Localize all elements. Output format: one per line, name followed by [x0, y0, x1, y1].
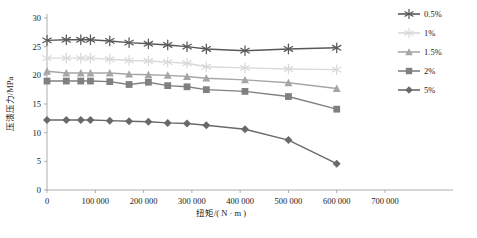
data-point-marker: [126, 81, 133, 88]
data-point-marker: [77, 78, 84, 85]
crush-pressure-vs-torque-chart: 0510152025300100 000200 000300 000400 00…: [0, 0, 477, 238]
data-point-marker: [164, 119, 172, 127]
y-tick-label: 5: [37, 156, 41, 166]
series-5%: [43, 116, 341, 168]
data-point-marker: [241, 125, 249, 133]
data-point-marker: [203, 86, 210, 93]
x-axis-title: 扭矩/( N · m ): [196, 208, 246, 218]
series-1%: [43, 53, 341, 74]
y-tick-label: 0: [37, 185, 41, 195]
x-tick-label: 600 000: [323, 196, 351, 206]
data-point-marker: [62, 116, 70, 124]
legend-label: 0.5%: [424, 9, 442, 19]
x-tick-label: 400 000: [226, 196, 254, 206]
data-point-marker: [184, 83, 191, 90]
data-point-marker: [43, 116, 51, 124]
legend-item-0.5%[interactable]: 0.5%: [398, 9, 442, 19]
data-point-marker: [44, 78, 51, 85]
legend-label: 1%: [424, 28, 435, 38]
y-axis-title: 压溃压力/MPa: [5, 77, 15, 132]
x-tick-label: 700 000: [371, 196, 399, 206]
y-tick-label: 10: [33, 128, 42, 138]
data-point-marker: [405, 86, 413, 94]
legend-item-1%[interactable]: 1%: [398, 28, 435, 38]
legend-label: 2%: [424, 66, 435, 76]
data-point-marker: [242, 88, 249, 95]
y-tick-label: 15: [33, 99, 42, 109]
data-point-marker: [183, 119, 191, 127]
x-tick-label: 200 000: [130, 196, 158, 206]
legend-item-5%[interactable]: 5%: [398, 85, 435, 95]
data-point-marker: [125, 117, 133, 125]
data-point-marker: [77, 116, 85, 124]
y-tick-label: 20: [33, 70, 42, 80]
series-2%: [44, 78, 341, 113]
data-point-marker: [63, 78, 70, 85]
chart-canvas: 0510152025300100 000200 000300 000400 00…: [0, 0, 477, 238]
series-line: [47, 81, 337, 109]
x-tick-label: 100 000: [81, 196, 109, 206]
legend-item-1.5%[interactable]: 1.5%: [398, 47, 442, 57]
series-line: [47, 120, 337, 164]
legend-label: 1.5%: [424, 47, 442, 57]
data-point-marker: [164, 82, 171, 89]
data-point-marker: [333, 160, 341, 168]
data-point-marker: [333, 106, 340, 113]
data-point-marker: [87, 78, 94, 85]
x-tick-label: 500 000: [275, 196, 303, 206]
data-point-marker: [406, 68, 412, 74]
data-point-marker: [285, 93, 292, 100]
data-point-marker: [144, 118, 152, 126]
x-tick-label: 0: [45, 196, 49, 206]
data-point-marker: [106, 117, 114, 125]
data-point-marker: [145, 79, 152, 86]
data-point-marker: [284, 136, 292, 144]
x-tick-label: 300 000: [178, 196, 206, 206]
legend-label: 5%: [424, 85, 435, 95]
y-tick-label: 30: [33, 13, 42, 23]
data-point-marker: [86, 116, 94, 124]
series-0.5%: [43, 35, 341, 55]
legend-item-2%[interactable]: 2%: [398, 66, 435, 76]
data-point-marker: [202, 121, 210, 129]
data-point-marker: [106, 78, 113, 85]
y-tick-label: 25: [33, 42, 42, 52]
